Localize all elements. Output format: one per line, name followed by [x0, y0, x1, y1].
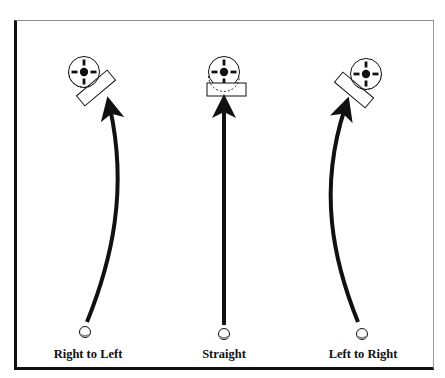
label-right-to-left: Right to Left: [28, 347, 148, 362]
panel-left-to-right: [331, 59, 382, 340]
panel-right-to-left: [69, 57, 118, 338]
curved-arrow-right-to-left: [87, 108, 118, 322]
golf-ball-icon: [357, 329, 368, 340]
panel-straight: [207, 57, 246, 340]
entry-rectangle: [207, 83, 246, 96]
label-left-to-right: Left to Right: [303, 347, 423, 362]
label-straight: Straight: [164, 347, 284, 362]
putt-diagram: [0, 0, 445, 378]
curved-arrow-left-to-right: [331, 108, 358, 322]
golf-ball-icon: [219, 329, 230, 340]
golf-ball-icon: [80, 327, 91, 338]
